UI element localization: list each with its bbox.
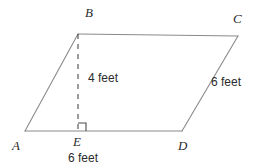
side-AB [25, 34, 78, 131]
right-side-measurement-label: 6 feet [211, 76, 241, 88]
vertex-label-E: E [73, 135, 81, 148]
vertex-label-D: D [178, 139, 187, 152]
height-measurement-label: 4 feet [88, 72, 118, 84]
vertex-label-B: B [85, 6, 93, 19]
vertex-label-C: C [233, 12, 242, 25]
right-angle-marker-icon [78, 123, 86, 131]
geometry-figure: B C A D E 4 feet 6 feet 6 feet [0, 0, 259, 168]
side-BC [78, 34, 238, 36]
vertex-label-A: A [12, 139, 20, 152]
base-measurement-label: 6 feet [68, 152, 98, 164]
